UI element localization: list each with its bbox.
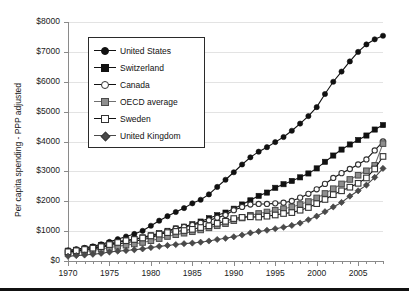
data-point: [148, 223, 153, 228]
data-point: [372, 148, 377, 153]
x-tick-mark: [184, 261, 185, 264]
data-point: [306, 199, 312, 205]
data-point: [90, 245, 96, 251]
legend-marker-icon: [94, 130, 116, 141]
x-tick-mark: [134, 261, 135, 264]
data-point: [339, 147, 344, 152]
data-point: [132, 231, 137, 236]
x-tick-mark: [201, 261, 202, 264]
data-point: [289, 222, 295, 228]
data-point: [297, 220, 303, 226]
data-point: [356, 137, 361, 142]
legend-item-switzerland[interactable]: Switzerland: [94, 59, 199, 76]
data-point: [256, 149, 261, 154]
x-tick-mark: [85, 261, 86, 264]
data-point: [123, 238, 129, 244]
data-point: [264, 190, 269, 195]
data-point: [231, 234, 237, 240]
data-point: [355, 172, 361, 178]
data-point: [239, 215, 245, 221]
x-tick-mark: [259, 261, 260, 264]
data-point: [347, 177, 353, 183]
data-point: [314, 187, 319, 192]
data-point: [190, 227, 196, 233]
x-tick-mark: [159, 261, 160, 264]
data-point: [206, 192, 211, 197]
x-tick-label: 1995: [266, 269, 285, 278]
data-point: [231, 208, 236, 213]
legend-marker-icon: [94, 62, 116, 73]
data-point: [256, 193, 261, 198]
data-point: [256, 201, 261, 206]
data-point: [364, 133, 369, 138]
data-point: [248, 202, 253, 207]
legend-marker-icon: [94, 45, 116, 56]
data-point: [331, 175, 336, 180]
data-point: [289, 128, 294, 133]
data-point: [181, 206, 186, 211]
x-tick-mark: [93, 261, 94, 264]
data-point: [223, 218, 229, 224]
data-point: [314, 195, 320, 201]
data-point: [264, 145, 269, 150]
data-point: [298, 195, 303, 200]
data-point: [322, 197, 328, 203]
data-point: [156, 231, 162, 237]
x-tick-label: 2000: [307, 269, 326, 278]
y-tick-label: $4000: [14, 137, 60, 146]
data-point: [222, 235, 228, 241]
data-point: [164, 242, 170, 248]
data-point: [356, 49, 361, 54]
data-point: [347, 166, 352, 171]
data-point: [215, 184, 220, 189]
data-point: [322, 159, 327, 164]
x-tick-mark: [151, 261, 152, 266]
x-tick-mark: [366, 261, 367, 264]
data-point: [239, 232, 245, 238]
legend-item-label: Sweden: [120, 114, 151, 124]
data-point: [314, 105, 319, 110]
x-tick-label: 2005: [349, 269, 368, 278]
x-tick-mark: [342, 261, 343, 264]
x-tick-label: 1985: [183, 269, 202, 278]
data-point: [173, 229, 179, 235]
data-point: [280, 224, 286, 230]
x-tick-mark: [358, 261, 359, 266]
data-point: [297, 202, 303, 208]
data-point: [173, 241, 179, 247]
data-point: [198, 225, 204, 231]
data-point: [214, 236, 220, 242]
data-point: [364, 168, 370, 174]
bottom-rule: [0, 288, 409, 291]
data-point: [347, 142, 352, 147]
data-point: [380, 122, 385, 127]
legend-item-united-kingdom[interactable]: United Kingdom: [94, 127, 199, 144]
legend-item-sweden[interactable]: Sweden: [94, 110, 199, 127]
y-tick-label: $7000: [14, 47, 60, 56]
legend-item-canada[interactable]: Canada: [94, 76, 199, 93]
data-point: [347, 59, 352, 64]
data-point: [289, 198, 294, 203]
data-point: [148, 233, 154, 239]
x-tick-mark: [176, 261, 177, 264]
x-tick-mark: [209, 261, 210, 264]
data-point: [322, 91, 327, 96]
x-tick-mark: [308, 261, 309, 264]
legend-marker-icon: [94, 79, 116, 90]
data-point: [273, 185, 278, 190]
data-point: [289, 210, 295, 216]
data-point: [322, 181, 327, 186]
data-point: [206, 223, 212, 229]
x-tick-mark: [226, 261, 227, 264]
data-point: [364, 175, 370, 181]
legend-item-oecd-average[interactable]: OECD average: [94, 93, 199, 110]
x-tick-mark: [76, 261, 77, 264]
data-point: [256, 214, 262, 220]
data-point: [322, 191, 328, 197]
data-point: [273, 139, 278, 144]
legend-marker-icon: [94, 96, 116, 107]
data-point: [181, 241, 187, 247]
data-point: [298, 121, 303, 126]
legend-item-united-states[interactable]: United States: [94, 42, 199, 59]
legend-marker-icon: [94, 113, 116, 124]
